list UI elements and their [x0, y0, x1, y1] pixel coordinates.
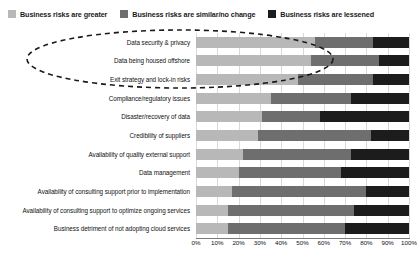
bar-segment-greater[interactable]	[196, 93, 271, 104]
bar-segment-greater[interactable]	[196, 149, 243, 160]
x-tick-label: 20%	[232, 239, 244, 246]
bar-segment-greater[interactable]	[196, 167, 239, 178]
bar-segment-greater[interactable]	[196, 130, 258, 141]
x-tick-label: 70%	[339, 239, 351, 246]
bar-segment-lessened[interactable]	[379, 55, 409, 66]
x-axis-tick-labels: 0%10%20%30%40%50%60%70%80%90%100%	[196, 239, 409, 251]
bar-segment-similar[interactable]	[271, 93, 352, 104]
bar-segment-similar[interactable]	[298, 74, 373, 85]
bar-segment-lessened[interactable]	[351, 93, 409, 104]
x-tick-label: 0%	[192, 239, 201, 246]
legend-label-lessened: Business risks are lessened	[280, 10, 374, 19]
bar-segment-greater[interactable]	[196, 111, 262, 122]
plot-area	[196, 33, 409, 238]
x-tick-label: 30%	[254, 239, 266, 246]
bar-segment-similar[interactable]	[258, 130, 371, 141]
bar-segment-similar[interactable]	[243, 149, 352, 160]
x-tick-label: 10%	[211, 239, 223, 246]
legend-swatch-icon-lessened	[268, 10, 276, 18]
bar-row[interactable]	[196, 55, 409, 66]
category-label: Availability of consulting support to op…	[22, 205, 190, 216]
category-label: Availability of quality external support	[89, 149, 191, 160]
bar-row[interactable]	[196, 167, 409, 178]
category-label: Disaster/recovery of data	[121, 111, 190, 122]
legend-item-similar[interactable]: Business risks are similar/no change	[120, 10, 255, 19]
category-label: Availability of consulting support prior…	[38, 186, 190, 197]
gridline-100	[409, 33, 410, 238]
category-label: Business detriment of not adopting cloud…	[54, 223, 190, 234]
legend-item-greater[interactable]: Business risks are greater	[8, 10, 107, 19]
bar-segment-greater[interactable]	[196, 37, 315, 48]
bar-segment-similar[interactable]	[311, 55, 379, 66]
legend-label-similar: Business risks are similar/no change	[132, 10, 255, 19]
x-tick-label: 40%	[275, 239, 287, 246]
bar-segment-lessened[interactable]	[345, 223, 409, 234]
x-tick-label: 90%	[381, 239, 393, 246]
bar-segment-lessened[interactable]	[373, 37, 409, 48]
bar-segment-similar[interactable]	[239, 167, 341, 178]
bar-segment-lessened[interactable]	[320, 111, 409, 122]
x-tick-label: 80%	[360, 239, 372, 246]
legend-swatch-icon-similar	[120, 10, 128, 18]
x-tick-label: 60%	[318, 239, 330, 246]
bar-segment-similar[interactable]	[228, 223, 345, 234]
bar-row[interactable]	[196, 74, 409, 85]
bar-row[interactable]	[196, 111, 409, 122]
bar-segment-greater[interactable]	[196, 205, 228, 216]
bar-segment-greater[interactable]	[196, 74, 298, 85]
category-label: Data management	[139, 167, 190, 178]
category-label: Exit strategy and lock-in risks	[110, 74, 190, 85]
bar-segment-lessened[interactable]	[354, 205, 409, 216]
category-label: Data being housed offshore	[114, 55, 190, 66]
bar-segment-lessened[interactable]	[366, 186, 409, 197]
bar-row[interactable]	[196, 37, 409, 48]
category-label: Data security & privacy	[127, 37, 190, 48]
bar-row[interactable]	[196, 93, 409, 104]
category-axis-labels: Data security & privacyData being housed…	[0, 33, 190, 238]
bar-row[interactable]	[196, 205, 409, 216]
bar-row[interactable]	[196, 223, 409, 234]
bar-segment-greater[interactable]	[196, 55, 311, 66]
bar-segment-similar[interactable]	[228, 205, 354, 216]
legend-swatch-icon-greater	[8, 10, 16, 18]
bar-segment-lessened[interactable]	[341, 167, 409, 178]
bar-segment-similar[interactable]	[262, 111, 320, 122]
legend-item-lessened[interactable]: Business risks are lessened	[268, 10, 374, 19]
bar-segment-lessened[interactable]	[371, 130, 409, 141]
bar-segment-similar[interactable]	[315, 37, 373, 48]
x-tick-label: 100%	[401, 239, 417, 246]
chart-legend: Business risks are greaterBusiness risks…	[0, 6, 415, 22]
bar-segment-greater[interactable]	[196, 186, 232, 197]
bar-segment-lessened[interactable]	[351, 149, 409, 160]
bar-segment-greater[interactable]	[196, 223, 228, 234]
bar-row[interactable]	[196, 186, 409, 197]
category-label: Compliance/regulatory issues	[109, 93, 190, 104]
bar-segment-similar[interactable]	[232, 186, 366, 197]
bar-row[interactable]	[196, 130, 409, 141]
bar-segment-lessened[interactable]	[373, 74, 409, 85]
legend-label-greater: Business risks are greater	[20, 10, 107, 19]
x-tick-label: 50%	[296, 239, 308, 246]
category-label: Credibility of suppliers	[130, 130, 190, 141]
bar-row[interactable]	[196, 149, 409, 160]
